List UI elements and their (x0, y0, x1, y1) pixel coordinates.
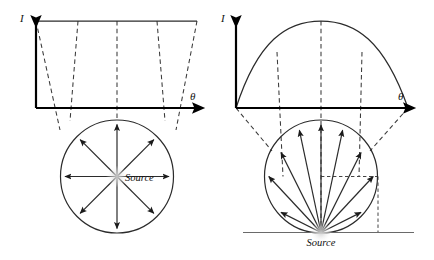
x-axis-label-right: θ (398, 90, 404, 102)
source-label-right: Source (307, 237, 336, 248)
light-distribution-figure: I θ Source (0, 0, 434, 260)
x-axis-label-left: θ (190, 90, 196, 102)
source-label-left: Source (125, 172, 154, 183)
